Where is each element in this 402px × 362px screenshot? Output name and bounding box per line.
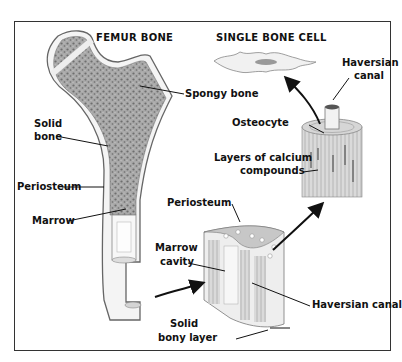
label-solid-bone-1: Solid (34, 118, 62, 130)
single-bone-cell-title: SINGLE BONE CELL (216, 32, 327, 44)
label-marrow-cavity-2: cavity (160, 256, 194, 268)
label-calcium-2: compounds (240, 165, 305, 177)
arrow-femur-to-section (155, 284, 200, 297)
label-solid-bony-layer-2: bony layer (158, 332, 217, 344)
label-spongy-bone: Spongy bone (185, 88, 258, 100)
label-periosteum-left: Periosteum (17, 181, 81, 193)
femur-bone-title: FEMUR BONE (96, 32, 173, 44)
label-haversian-canal-top-1: Haversian (342, 57, 399, 69)
label-solid-bone-2: bone (34, 131, 62, 143)
label-marrow-cavity-1: Marrow (155, 242, 198, 254)
arrow-osteon-to-cell (288, 80, 320, 124)
single-bone-cell (214, 52, 316, 73)
label-osteocyte: Osteocyte (232, 117, 289, 129)
osteon-cylinder (302, 105, 362, 198)
bone-cross-section (204, 226, 284, 327)
label-periosteum-right: Periosteum (167, 197, 231, 209)
arrow-section-to-osteon (273, 206, 320, 250)
label-haversian-canal-top-2: canal (354, 70, 384, 82)
femur-bone (47, 31, 172, 320)
label-solid-bony-layer-1: Solid (170, 318, 198, 330)
label-calcium-1: Layers of calcium (214, 152, 312, 164)
label-haversian-canal-bottom: Haversian canal (312, 299, 402, 311)
label-marrow: Marrow (32, 215, 75, 227)
